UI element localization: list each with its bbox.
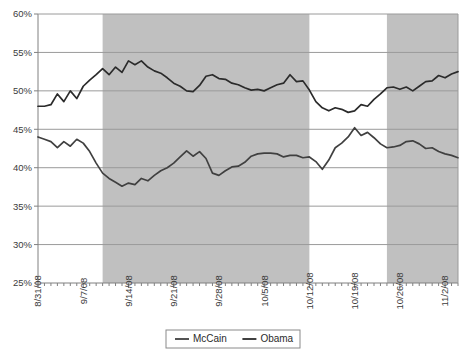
y-axis-tick-labels: 25%30%35%40%45%50%55%60% <box>13 8 33 288</box>
legend-label-mccain: McCain <box>193 333 227 344</box>
y-axis-label-25%: 25% <box>13 277 33 288</box>
chart-legend: McCainObama <box>166 330 300 348</box>
x-axis-label-9-14-08: 9/14/08 <box>123 275 134 307</box>
chart-canvas: 25%30%35%40%45%50%55%60% 8/31/089/7/089/… <box>0 0 465 361</box>
shaded-band-1 <box>387 14 458 283</box>
y-axis-label-30%: 30% <box>13 239 33 250</box>
x-axis-label-11-2-08: 11/2/08 <box>439 276 450 307</box>
x-axis-label-9-28-08: 9/28/08 <box>213 275 224 307</box>
y-axis-label-60%: 60% <box>13 8 33 19</box>
x-axis-label-10-19-08: 10/19/08 <box>349 273 360 310</box>
y-axis-label-50%: 50% <box>13 85 33 96</box>
shaded-period-bands <box>103 14 458 283</box>
y-axis-label-40%: 40% <box>13 162 33 173</box>
shaded-band-0 <box>103 14 310 283</box>
x-axis-label-10-5-08: 10/5/08 <box>259 275 270 307</box>
y-axis-label-55%: 55% <box>13 47 33 58</box>
y-axis-label-35%: 35% <box>13 201 33 212</box>
poll-trend-chart: 25%30%35%40%45%50%55%60% 8/31/089/7/089/… <box>0 0 465 361</box>
x-axis-label-10-12-08: 10/12/08 <box>304 273 315 310</box>
y-axis-ticks <box>34 14 38 283</box>
x-axis-label-10-26-08: 10/26/08 <box>394 273 405 310</box>
legend-label-obama: Obama <box>260 333 293 344</box>
x-axis-label-9-7-08: 9/7/08 <box>78 278 89 304</box>
y-axis-label-45%: 45% <box>13 124 33 135</box>
x-axis-label-8-31-08: 8/31/08 <box>32 275 43 307</box>
x-axis-label-9-21-08: 9/21/08 <box>168 275 179 307</box>
